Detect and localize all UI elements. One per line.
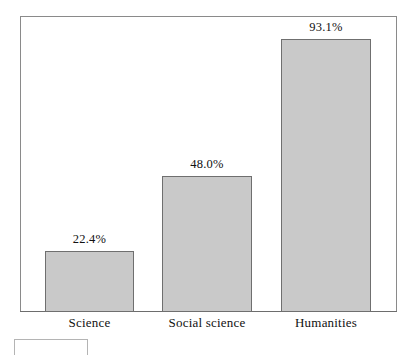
- bar-humanities[interactable]: [281, 39, 371, 312]
- cropped-box-artifact: [14, 339, 88, 355]
- bar-value-label-science: 22.4%: [45, 232, 134, 246]
- x-axis-category-humanities: Humanities: [271, 315, 381, 331]
- bar-science[interactable]: [45, 251, 134, 312]
- x-axis-category-science: Science: [35, 315, 144, 331]
- bar-social-science[interactable]: [162, 176, 252, 312]
- x-axis-category-social-science: Social science: [147, 315, 267, 331]
- bar-value-label-humanities: 93.1%: [281, 20, 371, 34]
- bar-value-label-social-science: 48.0%: [162, 157, 252, 171]
